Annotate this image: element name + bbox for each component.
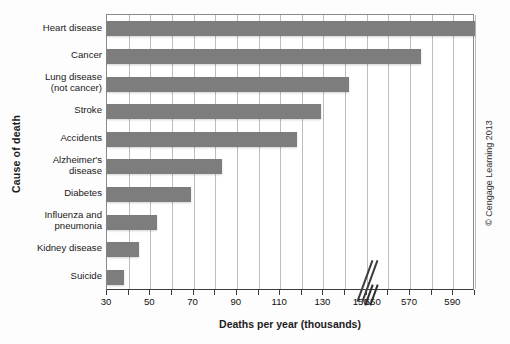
bar-chart: Cause of death SuicideKidney diseaseInfl… xyxy=(0,0,510,344)
category-label: Accidents xyxy=(14,133,102,144)
category-label: Stroke xyxy=(14,105,102,116)
axis-tick-label: 590 xyxy=(432,296,472,307)
bar xyxy=(107,215,157,230)
category-label-line: Suicide xyxy=(14,271,102,282)
bar xyxy=(107,132,297,147)
bar xyxy=(107,77,349,92)
axis-tick-label: 30 xyxy=(86,296,126,307)
category-label: Alzheimer'sdisease xyxy=(14,155,102,176)
category-label: Kidney disease xyxy=(14,243,102,254)
category-label-line: Diabetes xyxy=(14,188,102,199)
axis-tick xyxy=(431,290,432,295)
axis-tick-label: 70 xyxy=(173,296,213,307)
axis-tick-label: 50 xyxy=(129,296,169,307)
category-label-line: Accidents xyxy=(14,133,102,144)
category-label: Cancer xyxy=(14,50,102,61)
category-label: Diabetes xyxy=(14,188,102,199)
axis-tick xyxy=(344,290,345,295)
axis-tick-label: 130 xyxy=(302,296,342,307)
axis-tick xyxy=(301,290,302,295)
axis-tick xyxy=(193,290,194,295)
bar xyxy=(107,49,421,64)
axis-tick xyxy=(366,290,367,295)
axis-tick xyxy=(236,290,237,295)
axis-tick xyxy=(409,290,410,295)
axis-tick-label: 90 xyxy=(216,296,256,307)
axis-tick xyxy=(214,290,215,295)
copyright-credit: © Cengage Learning 2013 xyxy=(484,93,494,253)
category-label-line: (not cancer) xyxy=(14,83,102,94)
axis-tick xyxy=(474,290,475,295)
gridline xyxy=(453,15,454,289)
category-label-line: Kidney disease xyxy=(14,243,102,254)
axis-tick xyxy=(452,290,453,295)
bar xyxy=(107,187,191,202)
axis-tick xyxy=(387,290,388,295)
axis-tick xyxy=(279,290,280,295)
category-label-line: Heart disease xyxy=(14,23,102,34)
axis-tick xyxy=(106,290,107,295)
category-label: Influenza andpneumonia xyxy=(14,210,102,231)
gridline xyxy=(475,15,476,289)
axis-tick xyxy=(258,290,259,295)
category-label-list: SuicideKidney diseaseInfluenza andpneumo… xyxy=(14,14,102,290)
category-label-line: pneumonia xyxy=(14,221,102,232)
gridline xyxy=(432,15,433,289)
category-label-line: Cancer xyxy=(14,50,102,61)
category-label-line: Stroke xyxy=(14,105,102,116)
bar xyxy=(107,270,124,285)
axis-tick-label: 570 xyxy=(389,296,429,307)
axis-tick xyxy=(171,290,172,295)
bar xyxy=(107,104,321,119)
axis-tick xyxy=(128,290,129,295)
axis-tick xyxy=(149,290,150,295)
category-label: Suicide xyxy=(14,271,102,282)
category-label-line: disease xyxy=(14,166,102,177)
category-label: Heart disease xyxy=(14,23,102,34)
bar xyxy=(107,159,222,174)
axis-tick-label: 110 xyxy=(259,296,299,307)
x-axis-title: Deaths per year (thousands) xyxy=(106,318,474,330)
bar xyxy=(107,242,139,257)
plot-area xyxy=(106,14,474,290)
axis-tick xyxy=(322,290,323,295)
category-label: Lung disease(not cancer) xyxy=(14,72,102,93)
bar xyxy=(107,21,475,36)
